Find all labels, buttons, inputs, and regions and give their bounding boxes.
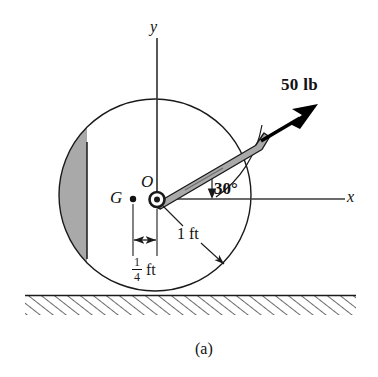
force-vector-50lb: [261, 104, 318, 141]
shaded-segment: [40, 90, 87, 305]
figure-container: y x O G 50 lb 30° 1 ft 1 4 ft (a): [0, 0, 378, 377]
force-arrowhead: [290, 104, 318, 129]
offset-dimension-label: 1 4 ft: [132, 256, 156, 283]
pivot-label-O: O: [141, 173, 153, 190]
ground-hatching: [25, 296, 356, 315]
y-axis-label: y: [150, 19, 157, 35]
force-magnitude-label: 50 lb: [281, 76, 318, 93]
pivot-joint-O: [150, 192, 165, 207]
mechanics-diagram: [0, 0, 378, 377]
pivot-center-dot: [154, 197, 160, 203]
center-of-mass-label-G: G: [110, 189, 122, 206]
fraction-numerator: 1: [133, 256, 141, 269]
fraction-unit-label: ft: [146, 261, 156, 279]
fraction-one-quarter: 1 4: [132, 256, 142, 283]
shaded-segment-fill: [40, 90, 87, 305]
radius-dimension-label: 1 ft: [177, 226, 199, 242]
ground-surface: [25, 296, 356, 316]
figure-caption: (a): [195, 341, 213, 357]
center-of-mass-dot: [130, 196, 136, 202]
fraction-denominator: 4: [133, 270, 141, 283]
angle-label-30deg: 30°: [214, 180, 238, 197]
x-axis-label: x: [347, 189, 354, 205]
